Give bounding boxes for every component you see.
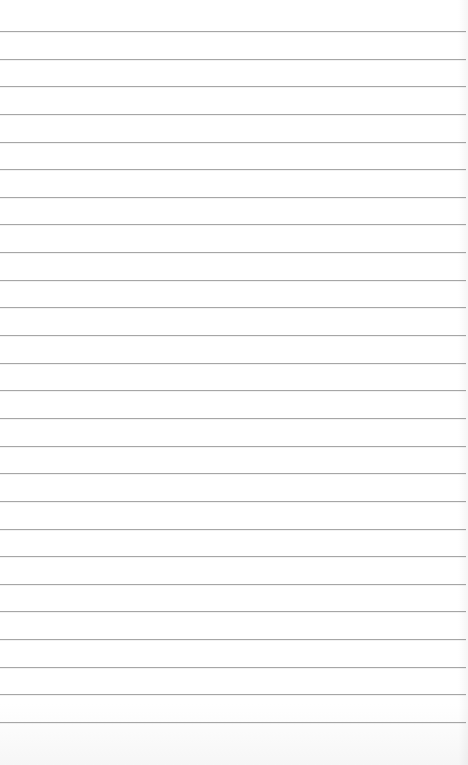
rule-line (0, 473, 466, 474)
rule-line (0, 59, 466, 60)
rule-line (0, 611, 466, 612)
ruled-lines (0, 0, 468, 765)
rule-line (0, 31, 466, 32)
rule-line (0, 224, 466, 225)
rule-line (0, 418, 466, 419)
rule-line (0, 694, 466, 695)
rule-line (0, 501, 466, 502)
rule-line (0, 252, 466, 253)
rule-line (0, 169, 466, 170)
rule-line (0, 667, 466, 668)
rule-line (0, 86, 466, 87)
rule-line (0, 142, 466, 143)
rule-line (0, 722, 466, 723)
rule-line (0, 335, 466, 336)
rule-line (0, 446, 466, 447)
lined-paper-sheet (0, 0, 468, 765)
rule-line (0, 114, 466, 115)
rule-line (0, 307, 466, 308)
rule-line (0, 280, 466, 281)
rule-line (0, 197, 466, 198)
rule-line (0, 584, 466, 585)
rule-line (0, 529, 466, 530)
rule-line (0, 390, 466, 391)
rule-line (0, 556, 466, 557)
rule-line (0, 363, 466, 364)
rule-line (0, 639, 466, 640)
